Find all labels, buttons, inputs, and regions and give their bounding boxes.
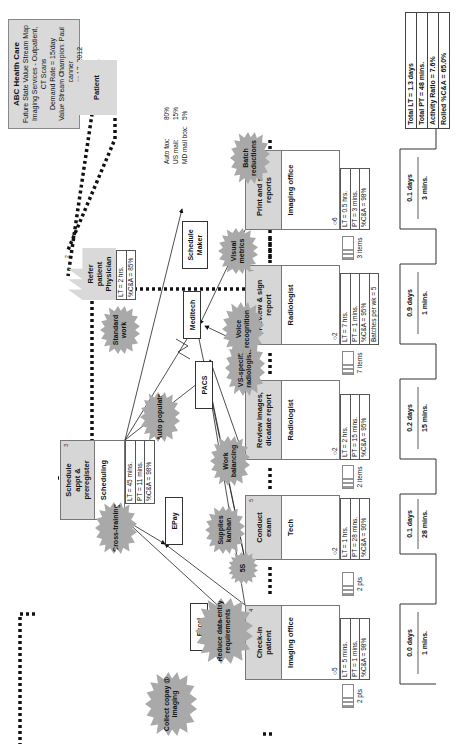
ship-label: US mail: — [171, 120, 180, 164]
ship-value: 80% — [162, 107, 171, 120]
process-dept: Scheduling — [99, 460, 108, 500]
process-dept: Radiologist — [286, 400, 295, 441]
operator-count: ○2 — [331, 547, 338, 555]
timeline-lt: 0.1 days — [406, 157, 413, 219]
system-meditech: Meditech — [183, 291, 201, 339]
inventory-icon: 2 pts — [342, 570, 363, 598]
totals-box: Total LT = 1.3 days Total PT = 48 mins. … — [405, 12, 450, 129]
system-epay: EPay — [165, 497, 183, 545]
physician-lt: LT = 2 hrs. — [117, 251, 127, 299]
timeline-pt: 3 mins. — [421, 157, 428, 219]
process-dept: Imaging office — [286, 617, 295, 668]
inventory-icon: 3 items — [342, 233, 363, 263]
process-title: Review images, dicatate report — [255, 385, 273, 455]
process-dept: Imaging office — [286, 165, 295, 216]
system-schedule-maker: Schedule Maker — [182, 221, 208, 269]
title-box: ABC Health Care Future State Value Strea… — [8, 19, 80, 129]
ship-label: Auto fax: — [162, 120, 171, 164]
patient-num: 1 — [58, 71, 64, 74]
process-dept: Radiologist — [286, 285, 295, 326]
process-info: LT = 5 mins.PT = 1 mins.%C&A = 98% — [340, 618, 370, 680]
process-conduct-exam: 5Conduct exam Tech○2 — [245, 495, 340, 560]
ship-label: MD mail box: — [180, 120, 189, 164]
process-info: LT = 2 hrs.PT = 15 mins.%C&A = 95% — [340, 394, 370, 460]
shipping-mix: Auto fax:80% US mail:15% MD mail box:5% — [162, 99, 189, 164]
value-stream-map: ABC Health Care Future State Value Strea… — [0, 0, 471, 744]
scheduling-info: LT = 45 mins. PT = 11 mins. %C&A = 98% — [125, 440, 155, 504]
timeline-lt: 0.2 days — [406, 387, 413, 449]
process-info: LT = 0.5 hrs.PT = 3 mins.%C&A = 98% — [340, 168, 370, 230]
map-subtitle: Future State Value Stream Map — [21, 22, 30, 126]
process-info: LT = 7 hrs.PT = 1 mins.%C&A = 95%Batches… — [340, 273, 379, 345]
operator-count: ○5 — [331, 667, 338, 675]
process-title: Schedule appt & preregister — [64, 455, 91, 505]
process-header: 3 Schedule appt & preregister — [61, 441, 95, 519]
process-review-images: 6Review images, dicatate report Radiolog… — [245, 380, 340, 460]
timeline-pt: 15 mins. — [421, 387, 428, 449]
total-pt: Total PT = 48 mins. — [417, 13, 428, 128]
ship-value: 15% — [171, 107, 180, 120]
activity-ratio: Activity Ratio = 7.6% — [428, 13, 439, 128]
timeline-lt: 0.9 days — [406, 272, 413, 334]
operator-count: ○2 — [331, 447, 338, 455]
patient-label: Patient — [92, 75, 101, 100]
timeline-lt: 0.1 days — [406, 496, 413, 552]
inventory-icon: 7 items — [342, 348, 363, 378]
process-check-in: 4Check-in patient Imaging office○5 — [245, 605, 340, 680]
physician-info: LT = 2 hrs. %C&A = 85% — [116, 250, 136, 300]
process-title: Conduct exam — [255, 508, 273, 548]
info-pt: PT = 11 mins. — [136, 441, 146, 503]
timeline-lt: 0.0 days — [406, 612, 413, 674]
system-pacs: PACS — [195, 361, 213, 409]
inventory-icon: 2 items — [342, 462, 363, 492]
physician-num: 2 — [64, 255, 70, 258]
inventory-icon: 2 pts — [342, 682, 363, 710]
ship-value: 5% — [180, 111, 189, 120]
timeline-pt: 1 mins. — [421, 272, 428, 334]
demand-rate: Demand Rate = 15/day — [48, 22, 57, 126]
process-title: Check-in patient — [255, 623, 273, 663]
physician-ca: %C&A = 85% — [127, 251, 136, 299]
map-scope: Imaging Services - Outpatient, CT Scans — [30, 22, 48, 126]
company-name: ABC Health Care — [12, 22, 21, 126]
process-num: 3 — [62, 444, 71, 447]
timeline-pt: 28 mins. — [421, 496, 428, 552]
timeline-pt: 1 mins. — [421, 612, 428, 674]
info-ca: %C&A = 98% — [145, 441, 154, 503]
operator-count: ○2 — [331, 332, 338, 340]
physician-label: Refer patient Physician — [86, 254, 113, 294]
operator-count: ○6 — [331, 217, 338, 225]
process-info: LT = 1 hrs.PT = 28 mins.%C&A = 90% — [340, 498, 370, 560]
process-dept: Tech — [286, 519, 295, 536]
total-lt: Total LT = 1.3 days — [406, 13, 417, 128]
info-lt: LT = 45 mins. — [126, 441, 136, 503]
rolled-ca: Rolled %C&A = 65.0% — [439, 13, 449, 128]
